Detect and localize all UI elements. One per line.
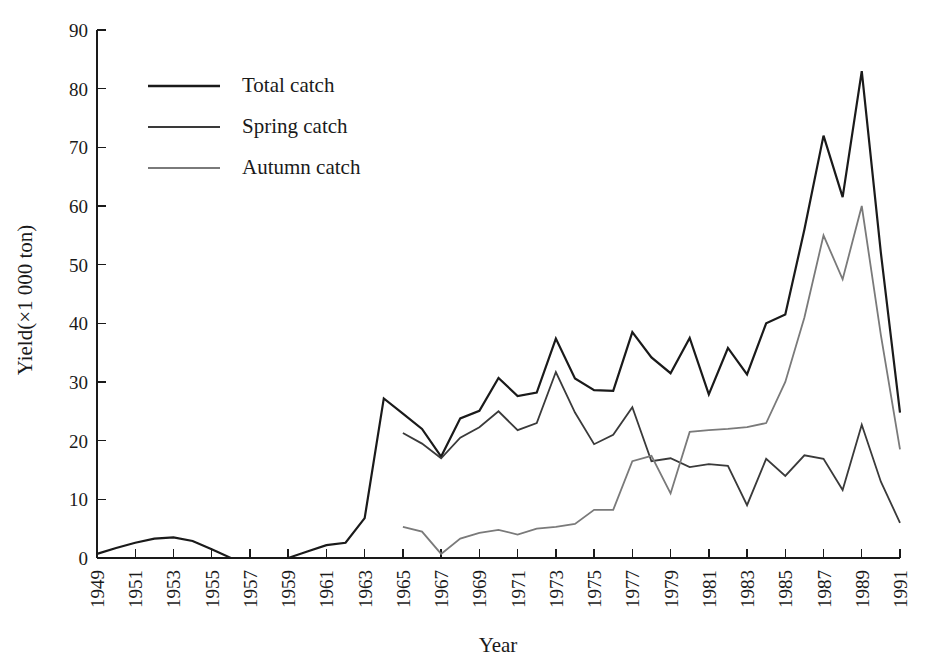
y-tick-label-20: 20 [69, 431, 88, 452]
x-tick-label-1969: 1969 [469, 570, 490, 608]
x-tick-label-1957: 1957 [240, 570, 261, 608]
x-tick-label-1955: 1955 [202, 570, 223, 608]
x-tick-label-1953: 1953 [163, 570, 184, 608]
x-tick-label-1979: 1979 [661, 570, 682, 608]
x-tick-label-1981: 1981 [699, 570, 720, 608]
chart-legend: Total catchSpring catchAutumn catch [148, 73, 361, 179]
legend-label-total-catch: Total catch [242, 73, 335, 97]
x-tick-label-1991: 1991 [890, 570, 911, 608]
x-tick-label-1971: 1971 [508, 570, 529, 608]
series-line-spring-catch [403, 372, 900, 523]
x-tick-label-1959: 1959 [278, 570, 299, 608]
y-tick-label-90: 90 [69, 20, 88, 41]
x-tick-label-1987: 1987 [814, 570, 835, 608]
x-axis: 1949195119531955195719591961196319651967… [87, 549, 911, 608]
chart-container: 0102030405060708090 19491951195319551957… [0, 0, 928, 666]
y-tick-label-50: 50 [69, 255, 88, 276]
x-axis-title: Year [479, 633, 518, 657]
x-tick-label-1949: 1949 [87, 570, 108, 608]
x-tick-label-1977: 1977 [622, 570, 643, 608]
x-tick-label-1963: 1963 [355, 570, 376, 608]
x-tick-label-1973: 1973 [546, 570, 567, 608]
y-tick-label-0: 0 [79, 548, 89, 569]
x-tick-label-1961: 1961 [316, 570, 337, 608]
x-tick-label-1985: 1985 [775, 570, 796, 608]
x-tick-label-1965: 1965 [393, 570, 414, 608]
legend-label-spring-catch: Spring catch [242, 114, 348, 138]
x-tick-label-1951: 1951 [125, 570, 146, 608]
x-tick-label-1989: 1989 [852, 570, 873, 608]
legend-label-autumn-catch: Autumn catch [242, 155, 361, 179]
y-tick-label-40: 40 [69, 313, 88, 334]
y-tick-label-60: 60 [69, 196, 88, 217]
series-line-autumn-catch [403, 206, 900, 554]
series-line-total-catch [97, 71, 900, 558]
data-series-group [97, 71, 900, 558]
y-axis: 0102030405060708090 [69, 20, 106, 569]
y-axis-title: Yield(×1 000 ton) [13, 225, 37, 376]
y-tick-label-10: 10 [69, 489, 88, 510]
yield-line-chart: 0102030405060708090 19491951195319551957… [0, 0, 928, 666]
y-tick-label-30: 30 [69, 372, 88, 393]
y-tick-label-70: 70 [69, 137, 88, 158]
y-tick-label-80: 80 [69, 79, 88, 100]
x-tick-label-1983: 1983 [737, 570, 758, 608]
x-tick-label-1967: 1967 [431, 570, 452, 608]
x-tick-label-1975: 1975 [584, 570, 605, 608]
